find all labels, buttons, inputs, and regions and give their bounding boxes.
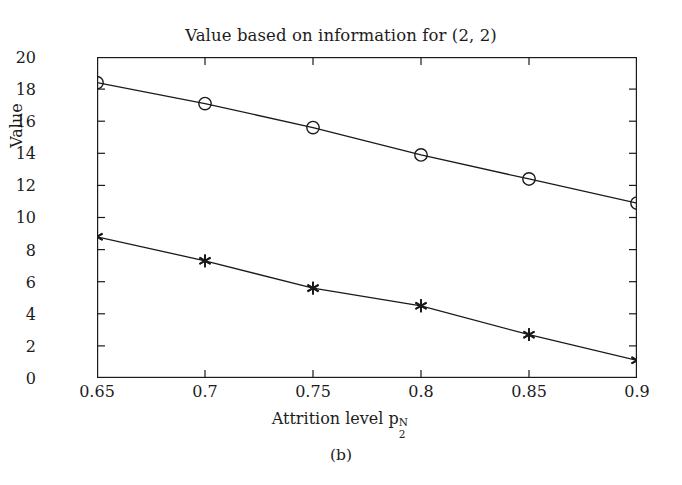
series-lines	[97, 83, 637, 361]
ytick-label-10: 10	[0, 210, 36, 226]
x-axis-label-subscript: 2	[399, 428, 406, 440]
data-point-marker-asterisk	[523, 328, 534, 341]
x-axis-label-text: Attrition level p	[272, 409, 399, 428]
y-axis-ticks	[97, 57, 637, 378]
series-line-lower-curve	[97, 237, 637, 361]
series-line-upper-curve	[97, 83, 637, 203]
xtick-label-0-85: 0.85	[489, 384, 569, 400]
figure-caption: (b)	[0, 446, 682, 464]
ytick-label-20: 20	[0, 50, 36, 66]
plot-svg	[97, 57, 637, 378]
xtick-label-0-9: 0.9	[597, 384, 677, 400]
figure-panel: Value based on information for (2, 2) 20…	[0, 0, 682, 485]
ytick-label-2: 2	[0, 339, 36, 355]
ytick-label-4: 4	[0, 307, 36, 323]
plot-area	[97, 57, 637, 378]
chart-title: Value based on information for (2, 2)	[0, 26, 682, 45]
xtick-label-0-7: 0.7	[165, 384, 245, 400]
series-markers	[97, 76, 637, 366]
y-axis-label: Value	[7, 66, 26, 186]
ytick-label-0: 0	[0, 371, 36, 387]
xtick-label-0-8: 0.8	[381, 384, 461, 400]
ytick-label-6: 6	[0, 275, 36, 291]
data-point-marker-asterisk	[199, 254, 210, 267]
x-axis-label: Attrition level pN2	[0, 409, 682, 428]
x-axis-ticks	[97, 57, 637, 378]
ytick-label-8: 8	[0, 243, 36, 259]
axes-frame	[98, 58, 637, 378]
xtick-label-0-65: 0.65	[57, 384, 137, 400]
xtick-label-0-75: 0.75	[273, 384, 353, 400]
